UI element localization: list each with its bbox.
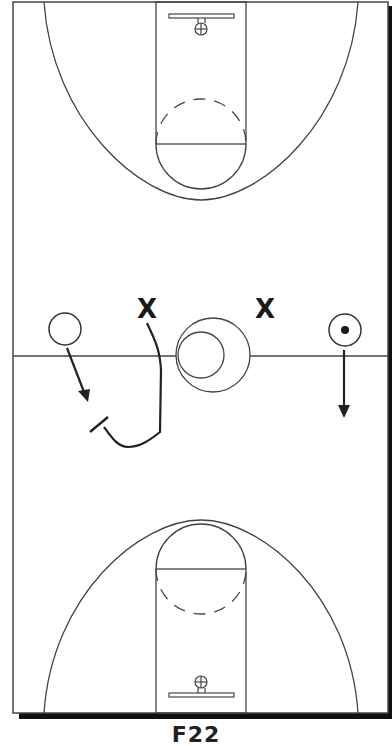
ball-dot-icon: [341, 326, 349, 334]
figure-caption: F22: [0, 722, 392, 746]
backboard-bottom: [169, 693, 234, 697]
backboard-top: [169, 14, 234, 18]
defender-left: X: [137, 294, 157, 324]
offensive-player-left: [49, 313, 81, 345]
center-circle-outer: [176, 318, 250, 392]
defender-right: X: [255, 294, 275, 324]
